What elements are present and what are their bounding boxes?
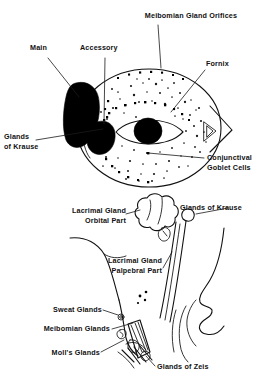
figure-background [0, 0, 276, 382]
label-glands-of-zeis: Glands of Zeis [157, 362, 209, 371]
goblet-cell-marker-dot [147, 152, 149, 154]
label-lacrimal-gland-orbital-line2: Orbital Part [85, 216, 126, 225]
label-sweat-glands: Sweat Glands [53, 305, 102, 314]
label-glands-of-krause-lower: Glands of Krause [180, 203, 242, 212]
label-molls-glands: Moll's Glands [52, 348, 100, 357]
label-lacrimal-gland-palpebral-line1: Lacrimal Gland [108, 256, 162, 265]
label-conjunctival-goblet-cells-line1: Conjunctival [207, 153, 252, 162]
pupil-iris-fill [134, 118, 162, 144]
figure-root: Meibomian Gland Orifices Main Accessory … [0, 0, 276, 382]
label-glands-of-krause-line1: Glands [4, 132, 29, 141]
label-accessory: Accessory [80, 43, 118, 52]
label-lacrimal-gland-orbital-line1: Lacrimal Gland [72, 206, 126, 215]
label-lacrimal-gland-palpebral-line2: Palpebral Part [112, 266, 163, 275]
label-meibomian-glands: Meibomian Glands [44, 324, 110, 333]
label-fornix: Fornix [206, 59, 229, 68]
ocular-glands-figure: Meibomian Gland Orifices Main Accessory … [0, 0, 276, 382]
label-conjunctival-goblet-cells-line2: Goblet Cells [207, 163, 251, 172]
label-glands-of-krause-line2: of Krause [4, 142, 39, 151]
label-main: Main [30, 43, 47, 52]
label-meibomian-gland-orifices: Meibomian Gland Orifices [145, 11, 237, 20]
